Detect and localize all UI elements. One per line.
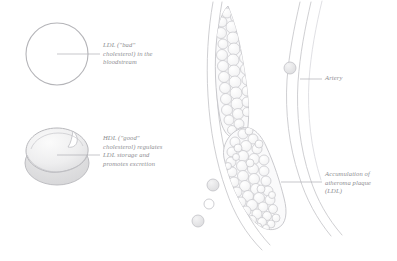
hdl-caption: HDL ("good" cholesterol) regulates LDL s… — [103, 134, 187, 168]
artery-sheath-right — [309, 1, 323, 180]
artery-wall-right-outer — [298, 2, 343, 235]
plaque-caption: Accumulation of atheroma plaque (LDL) — [325, 170, 395, 196]
free-particle-1 — [284, 62, 296, 74]
free-particle-2 — [207, 179, 219, 191]
ldl-caption: LDL ("bad" cholesterol) in the bloodstre… — [103, 41, 181, 67]
free-particle-3 — [204, 199, 214, 209]
figure-canvas: LDL ("bad" cholesterol) in the bloodstre… — [0, 0, 397, 261]
ldl-particle-group — [26, 23, 100, 85]
plaque-mass-upper — [215, 6, 252, 140]
right-leader-lines — [281, 79, 322, 182]
free-particle-4 — [192, 215, 204, 227]
artery-wall-right-inner — [287, 2, 332, 236]
hdl-particle-group — [25, 128, 100, 185]
artery-caption: Artery — [325, 74, 391, 83]
illustration — [0, 0, 397, 261]
plaque-mass-lower — [223, 127, 286, 232]
